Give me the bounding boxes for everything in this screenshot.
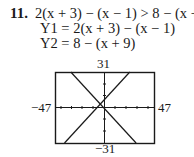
calculator-graph (0, 0, 194, 157)
